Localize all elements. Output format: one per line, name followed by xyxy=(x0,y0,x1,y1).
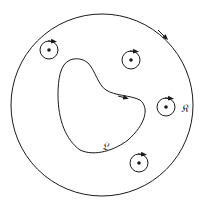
inner-arrow-icon xyxy=(118,96,126,98)
small-circle-1 xyxy=(40,41,58,59)
outer-contour-k xyxy=(11,14,193,196)
label-l: 𝔏 xyxy=(102,140,110,153)
small-circle-2 xyxy=(122,51,140,69)
small-circle-3 xyxy=(157,98,175,116)
small-circle-4 xyxy=(130,154,148,172)
diagram-canvas: 𝔎 𝔏 xyxy=(0,0,203,208)
inner-contour-l xyxy=(58,59,145,153)
label-k: 𝔎 xyxy=(181,102,189,115)
